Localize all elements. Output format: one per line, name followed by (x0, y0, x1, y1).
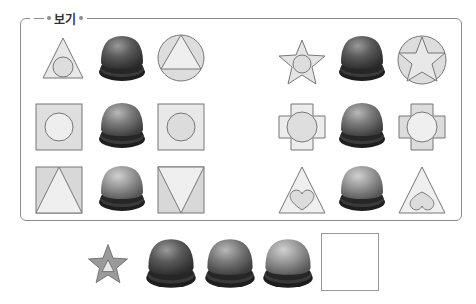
button-dark[interactable] (96, 32, 148, 84)
button-light[interactable] (96, 162, 148, 214)
shape-triangle-heart-inverted (396, 164, 448, 216)
shape-triangle-heart (276, 164, 328, 216)
shape-square-circle-shaded (155, 101, 207, 153)
question-button-light[interactable] (260, 235, 316, 291)
shape-cross-circle (276, 101, 328, 153)
shape-square-triangle-up (33, 164, 85, 216)
shape-circle-triangle (155, 32, 207, 84)
frame-title-text: 보기 (54, 10, 76, 27)
shape-square-circle (33, 101, 85, 153)
title-line-left (34, 18, 44, 19)
title-dot-left (47, 16, 51, 20)
question-star-triangle (86, 242, 130, 286)
title-dot-right (79, 16, 83, 20)
frame-title: 보기 (30, 9, 87, 27)
button-dark[interactable] (336, 32, 388, 84)
shape-circle-star (396, 34, 448, 86)
shape-cross-circle-shaded (396, 101, 448, 153)
button-light[interactable] (336, 162, 388, 214)
shape-triangle-circle (37, 32, 89, 84)
answer-box[interactable] (321, 233, 379, 291)
question-button-medium[interactable] (202, 235, 258, 291)
button-medium[interactable] (336, 99, 388, 151)
shape-star-circle (276, 36, 328, 88)
button-medium[interactable] (96, 99, 148, 151)
question-button-dark[interactable] (143, 235, 199, 291)
shape-square-triangle-down (155, 164, 207, 216)
